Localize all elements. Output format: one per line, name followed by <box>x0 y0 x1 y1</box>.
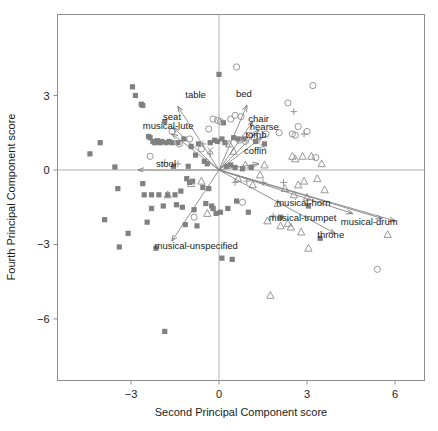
vector-label-table: table <box>185 89 206 100</box>
data-point-square <box>180 205 185 210</box>
data-point-square <box>172 192 177 197</box>
vector-label-coffin: coffin <box>244 145 267 156</box>
data-point-square <box>102 217 107 222</box>
scatter-plot-canvas: −3036 30−3−6 tableseatmusical-lutestoolb… <box>0 0 438 431</box>
data-point-square <box>246 210 251 215</box>
data-point-square <box>230 257 235 262</box>
data-point-square <box>87 151 92 156</box>
vector-label-musical-drum: musical-drum <box>341 216 398 227</box>
data-point-square <box>174 202 179 207</box>
y-axis-title: Fourth Principal Component score <box>5 114 17 281</box>
x-tick-label: −3 <box>125 388 138 400</box>
data-point-square <box>183 222 188 227</box>
data-point-square <box>117 244 122 249</box>
data-point-square <box>218 210 223 215</box>
vector-label-bed: bed <box>236 88 252 99</box>
data-point-square <box>219 256 224 261</box>
data-point-square <box>140 181 145 186</box>
data-point-square <box>145 220 150 225</box>
data-point-square <box>211 206 216 211</box>
vector-label-throne: throne <box>317 229 344 240</box>
data-point-square <box>234 198 239 203</box>
x-tick-label: 3 <box>304 388 310 400</box>
data-point-square <box>125 231 130 236</box>
data-point-square <box>115 186 120 191</box>
vector-label-musical-trumpet: musical-trumpet <box>269 212 337 223</box>
y-tick-label: −6 <box>37 313 50 325</box>
data-point-square <box>112 164 117 169</box>
data-point-square <box>142 192 147 197</box>
data-point-square <box>169 140 174 145</box>
data-point-square <box>156 192 161 197</box>
vector-label-musical-horn: musical-horn <box>276 197 330 208</box>
data-point-square <box>194 223 199 228</box>
data-point-square <box>149 192 154 197</box>
data-point-square <box>216 72 221 77</box>
data-point-square <box>162 329 167 334</box>
data-point-square <box>186 164 191 169</box>
x-tick-label: 6 <box>392 388 398 400</box>
data-point-square <box>133 93 138 98</box>
y-tick-label: 3 <box>43 90 49 102</box>
y-tick-label: 0 <box>43 164 49 176</box>
vector-label-musical-lute: musical-lute <box>143 120 194 131</box>
x-tick-label: 0 <box>216 388 222 400</box>
data-point-square <box>249 165 254 170</box>
data-point-square <box>203 201 208 206</box>
data-point-square <box>225 206 230 211</box>
pca-biplot-figure: −3036 30−3−6 tableseatmusical-lutestoolb… <box>0 0 438 431</box>
vector-label-tomb: tomb <box>245 129 266 140</box>
data-point-square <box>98 140 103 145</box>
data-point-square <box>161 203 166 208</box>
vector-label-stool: stool <box>156 158 176 169</box>
data-point-square <box>130 84 135 89</box>
vector-label-musical-unspecified: musical-unspecified <box>154 240 237 251</box>
data-point-square <box>200 185 205 190</box>
data-point-square <box>178 189 183 194</box>
data-point-square <box>140 103 145 108</box>
y-tick-label: −3 <box>37 238 50 250</box>
x-axis-title: Second Principal Component score <box>155 406 327 418</box>
